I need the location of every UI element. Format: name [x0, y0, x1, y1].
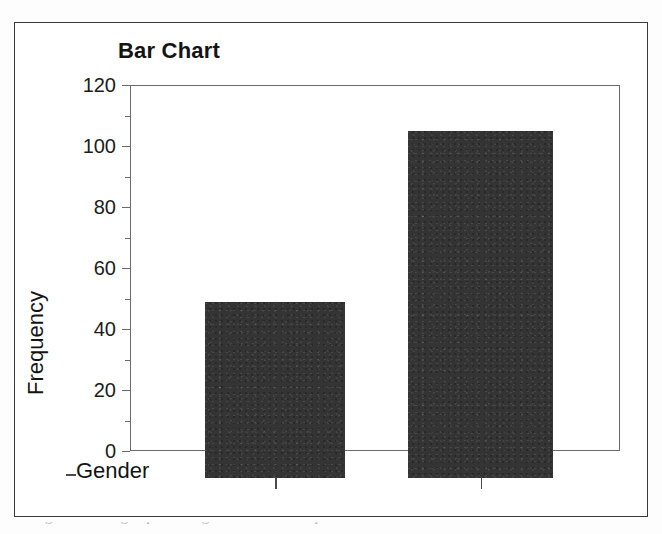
y-tick-label: 100 — [60, 135, 116, 158]
y-tick-major — [122, 207, 130, 208]
y-tick-minor — [125, 116, 130, 117]
y-tick-major — [122, 268, 130, 269]
y-axis-title: Frequency — [23, 263, 49, 423]
y-tick-major — [122, 146, 130, 147]
figure-caption-cutoff: Figure Bar graph for gender in sample — [28, 522, 628, 534]
y-tick-label: 20 — [60, 379, 116, 402]
figure-caption-text: Figure Bar graph for gender in sample — [28, 522, 339, 525]
y-tick-minor — [125, 360, 130, 361]
x-axis-title-dash-icon — [66, 474, 76, 476]
y-tick-label: 120 — [60, 74, 116, 97]
y-tick-minor — [125, 177, 130, 178]
y-tick-label: 80 — [60, 196, 116, 219]
y-tick-major — [122, 451, 130, 452]
scanned-page: Bar Chart 020406080100120 Frequency Gend… — [0, 0, 662, 534]
y-tick-major — [122, 329, 130, 330]
x-tick — [275, 477, 277, 489]
y-tick-major — [122, 85, 130, 86]
y-axis-line — [130, 85, 131, 451]
y-tick-label: 40 — [60, 318, 116, 341]
bar — [408, 131, 553, 478]
x-tick — [481, 477, 483, 489]
y-tick-label: 60 — [60, 257, 116, 280]
y-tick-minor — [125, 421, 130, 422]
y-tick-minor — [125, 238, 130, 239]
y-tick-major — [122, 390, 130, 391]
x-axis-title: Gender — [76, 458, 149, 484]
y-tick-minor — [125, 299, 130, 300]
bar — [205, 302, 345, 478]
chart-title: Bar Chart — [118, 38, 220, 64]
